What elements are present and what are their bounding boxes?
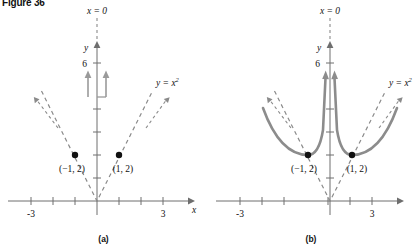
x-axis-label: x bbox=[191, 205, 197, 215]
panel-a-caption: (a) bbox=[0, 234, 207, 244]
x-tick-label: -3 bbox=[27, 209, 35, 219]
point-label: (−1, 2) bbox=[291, 164, 317, 175]
curve-equation-exponent: 2 bbox=[176, 76, 180, 83]
y-axis-b bbox=[326, 41, 334, 215]
vertical-line-label: x = 0 bbox=[86, 6, 107, 16]
panel-a-plot: y x 6 -3 3 x = 0 y = x2 (−1, 2) (1, 2) bbox=[0, 0, 207, 250]
vertical-line-label: x = 0 bbox=[319, 6, 340, 16]
data-point bbox=[349, 152, 355, 158]
data-point bbox=[72, 152, 78, 158]
x-tick-label: -3 bbox=[236, 209, 244, 219]
solid-curve-left-b bbox=[263, 78, 326, 155]
data-point bbox=[116, 152, 122, 158]
panel-a: y x 6 -3 3 x = 0 y = x2 (−1, 2) (1, 2) (… bbox=[0, 0, 207, 250]
y-axis-label: y bbox=[316, 43, 322, 53]
figure-root: Figure 36 bbox=[0, 0, 415, 250]
y-tick-label: 6 bbox=[315, 59, 320, 69]
x-axis-a bbox=[8, 197, 195, 205]
y-axis-a bbox=[93, 41, 101, 215]
panel-b-plot: y x 6 -3 3 x = 0 y = x2 (−1, 2) (1, 2) bbox=[207, 0, 415, 250]
curve-pointer-right-a bbox=[146, 96, 170, 128]
curve-equation-exponent: 2 bbox=[409, 76, 413, 83]
point-label: (1, 2) bbox=[347, 164, 368, 175]
point-label: (−1, 2) bbox=[59, 164, 85, 175]
y-axis-label: y bbox=[83, 43, 89, 53]
panel-b: y x 6 -3 3 x = 0 y = x2 (−1, 2) (1, 2) (… bbox=[207, 0, 415, 250]
x-tick-label: 3 bbox=[161, 209, 166, 219]
curve-equation-label: y = x2 bbox=[155, 76, 180, 88]
solid-curve-right-arrowhead bbox=[331, 71, 338, 80]
data-point bbox=[305, 152, 311, 158]
y-tick-label: 6 bbox=[82, 59, 87, 69]
x-tick-label: 3 bbox=[370, 209, 375, 219]
panel-b-caption: (b) bbox=[207, 234, 415, 244]
curve-equation-text: y = x bbox=[388, 78, 409, 88]
solid-curve-left-arrowhead bbox=[322, 71, 329, 80]
point-label: (1, 2) bbox=[113, 164, 134, 175]
x-axis-b bbox=[216, 197, 404, 205]
curve-equation-label: y = x2 bbox=[388, 76, 413, 88]
curve-equation-text: y = x bbox=[155, 78, 176, 88]
